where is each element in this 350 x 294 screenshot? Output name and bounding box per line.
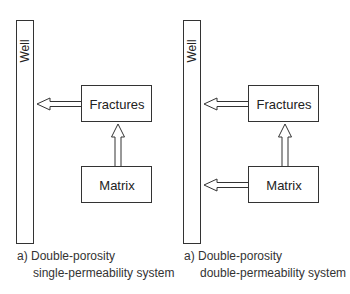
fractures-label-a: Fractures (82, 86, 152, 122)
matrix-label-a: Matrix (82, 167, 152, 203)
caption-a-line2: single-permeability system (33, 265, 174, 281)
well-label-b: Well (185, 36, 199, 66)
arrow-fractures-to-well-a (37, 98, 81, 110)
well-label-a: Well (18, 36, 32, 66)
matrix-label-b: Matrix (249, 167, 319, 203)
arrow-matrix-to-fractures-b (279, 124, 292, 166)
fractures-label-b: Fractures (249, 86, 319, 122)
caption-b-line2: double-permeability system (200, 265, 346, 281)
caption-a-line1: a) Double-porosity (17, 248, 115, 264)
arrow-matrix-to-well-b (204, 179, 248, 191)
arrow-fractures-to-well-b (204, 98, 248, 110)
arrow-matrix-to-fractures-a (112, 124, 125, 166)
caption-b-line1: a) Double-porosity (184, 248, 282, 264)
